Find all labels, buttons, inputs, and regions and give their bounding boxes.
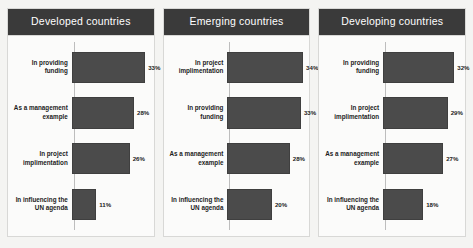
- bar-value-label: 28%: [290, 155, 305, 162]
- bar-value-label: 29%: [448, 109, 463, 116]
- bar-value-label: 33%: [145, 64, 160, 71]
- bar-track: 11%: [72, 184, 150, 224]
- bar-row: In influencing the UN agenda 20%: [164, 184, 306, 224]
- bar-track: 28%: [227, 139, 305, 179]
- bar-value-label: 28%: [134, 109, 149, 116]
- bar: [72, 52, 145, 83]
- category-label: In influencing the UN agenda: [8, 196, 72, 213]
- bar-row: In project implimentation 26%: [8, 139, 150, 179]
- panel-developing-countries: Developing countries In providing fundin…: [318, 8, 466, 237]
- bar-row: In providing funding 33%: [8, 47, 150, 87]
- category-label: In providing funding: [319, 59, 383, 76]
- category-label: As a management example: [164, 150, 228, 167]
- bar-track: 32%: [383, 47, 461, 87]
- bar-track: 33%: [227, 93, 305, 133]
- bar: [72, 97, 134, 128]
- bar-value-label: 34%: [303, 64, 318, 71]
- panel-developed-countries: Developed countries In providing funding…: [7, 8, 155, 237]
- bar-row: In project implimentation 34%: [164, 47, 306, 87]
- bar-row: In project implimentation 29%: [319, 93, 461, 133]
- category-label: As a management example: [319, 150, 383, 167]
- bar-value-label: 11%: [96, 201, 111, 208]
- bar: [383, 143, 443, 174]
- category-label: In influencing the UN agenda: [164, 196, 228, 213]
- bar: [383, 97, 448, 128]
- panel-title: Developing countries: [319, 9, 465, 36]
- bar-value-label: 26%: [130, 155, 145, 162]
- category-label: In providing funding: [8, 59, 72, 76]
- panel-emerging-countries: Emerging countries In project implimenta…: [163, 8, 311, 237]
- bar: [227, 143, 289, 174]
- bar: [227, 97, 300, 128]
- bar: [227, 52, 303, 83]
- panel-title: Emerging countries: [164, 9, 310, 36]
- bar-row: In influencing the UN agenda 18%: [319, 184, 461, 224]
- bar-row: As a management example 28%: [164, 139, 306, 179]
- panel-plot-area: In providing funding 33% As a management…: [8, 36, 154, 236]
- category-label: In influencing the UN agenda: [319, 196, 383, 213]
- category-label: In providing funding: [164, 104, 228, 121]
- bar-value-label: 18%: [423, 201, 438, 208]
- category-label: In project implimentation: [8, 150, 72, 167]
- bar-track: 29%: [383, 93, 461, 133]
- bar-row: In influencing the UN agenda 11%: [8, 184, 150, 224]
- category-label: In project implimentation: [319, 104, 383, 121]
- bar-row: As a management example 28%: [8, 93, 150, 133]
- bar-row: In providing funding 33%: [164, 93, 306, 133]
- bar-value-label: 20%: [272, 201, 287, 208]
- panel-plot-area: In providing funding 32% In project impl…: [319, 36, 465, 236]
- bar-track: 34%: [227, 47, 305, 87]
- bar-row: In providing funding 32%: [319, 47, 461, 87]
- bar: [383, 52, 454, 83]
- category-label: As a management example: [8, 104, 72, 121]
- chart-board: Developed countries In providing funding…: [0, 0, 473, 248]
- bar-track: 26%: [72, 139, 150, 179]
- bar: [72, 143, 130, 174]
- bar-value-label: 32%: [454, 64, 469, 71]
- bar-track: 27%: [383, 139, 461, 179]
- bar: [227, 189, 272, 220]
- bar-value-label: 33%: [301, 109, 316, 116]
- bar-value-label: 27%: [443, 155, 458, 162]
- bar: [72, 189, 96, 220]
- bar: [383, 189, 423, 220]
- category-label: In project implimentation: [164, 59, 228, 76]
- bar-track: 18%: [383, 184, 461, 224]
- bar-track: 20%: [227, 184, 305, 224]
- bar-track: 28%: [72, 93, 150, 133]
- panel-plot-area: In project implimentation 34% In providi…: [164, 36, 310, 236]
- bar-track: 33%: [72, 47, 150, 87]
- bar-row: As a management example 27%: [319, 139, 461, 179]
- panel-title: Developed countries: [8, 9, 154, 36]
